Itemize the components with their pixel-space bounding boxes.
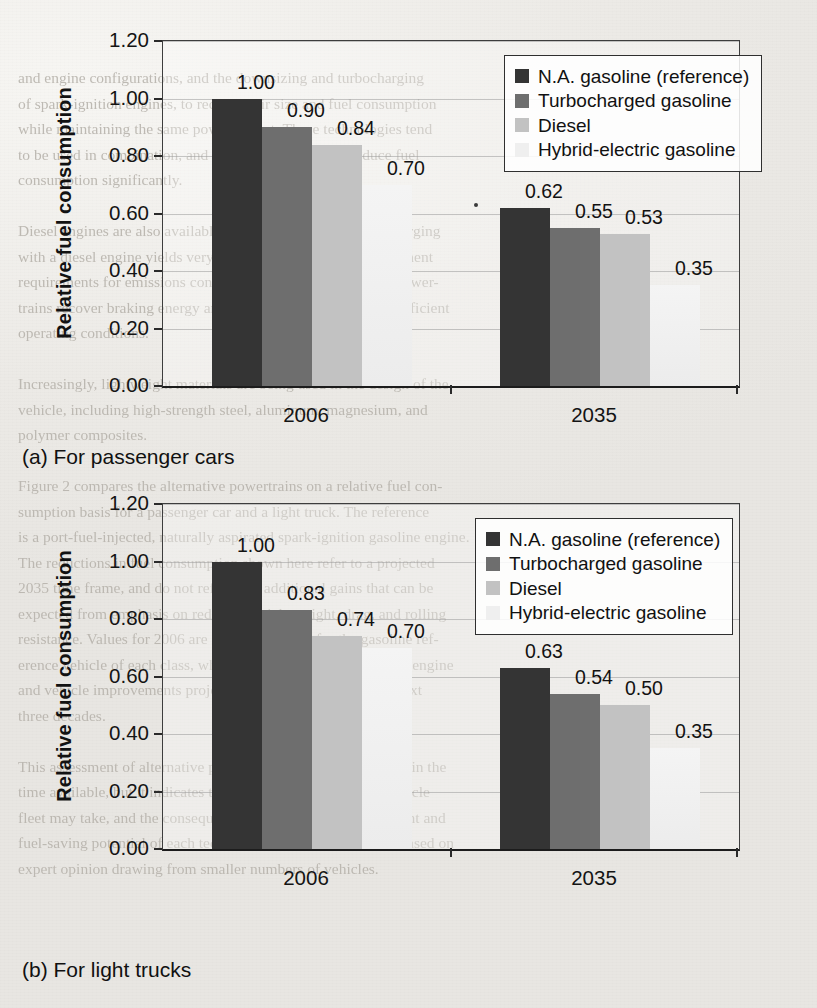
y-axis-tick [154, 40, 162, 42]
scan-speck [474, 203, 478, 207]
y-axis-tick [154, 618, 162, 620]
bar-value-label: 0.55 [575, 200, 613, 223]
bar [312, 145, 362, 387]
y-axis-tick-label: 1.20 [109, 491, 149, 515]
legend-item: Diesel [515, 114, 749, 137]
bar-value-label: 0.70 [387, 157, 425, 180]
bar [262, 127, 312, 386]
bar [550, 694, 600, 849]
y-axis-tick [154, 561, 162, 563]
bar-value-label: 0.35 [675, 257, 713, 280]
x-axis-category-label: 2035 [571, 866, 617, 890]
bar-value-label: 0.90 [287, 99, 325, 122]
category-separator-tick [450, 848, 452, 857]
bar-value-label: 0.70 [387, 620, 425, 643]
bar-value-label: 0.83 [287, 582, 325, 605]
y-axis-tick-label: 0.00 [109, 836, 149, 860]
figure-panel-a: Relative fuel consumption0.000.200.400.6… [0, 0, 817, 470]
bar-value-label: 0.84 [337, 117, 375, 140]
bar [600, 234, 650, 386]
panel-b-caption: (b) For light trucks [22, 958, 191, 982]
chart-legend: N.A. gasoline (reference)Turbocharged ga… [504, 55, 762, 172]
y-axis-tick-label: 0.20 [109, 316, 149, 340]
legend-item: Hybrid-electric gasoline [515, 138, 749, 161]
y-axis-tick-label: 1.20 [109, 28, 149, 52]
category-separator-tick [736, 385, 738, 394]
y-axis-tick [154, 213, 162, 215]
bar-value-label: 0.74 [337, 608, 375, 631]
y-axis-tick-label: 0.40 [109, 721, 149, 745]
y-gridline [163, 41, 739, 42]
legend-item: Hybrid-electric gasoline [486, 601, 720, 624]
legend-swatch-icon [515, 69, 529, 83]
bar-value-label: 1.00 [237, 534, 275, 557]
y-axis-tick [154, 791, 162, 793]
bar-value-label: 0.62 [525, 180, 563, 203]
y-axis-tick [154, 270, 162, 272]
y-axis-tick-label: 0.80 [109, 143, 149, 167]
legend-label: Diesel [538, 114, 591, 137]
y-axis-tick [154, 676, 162, 678]
bar-value-label: 0.50 [625, 677, 663, 700]
bar [500, 208, 550, 386]
figure-panel-b: Relative fuel consumption0.000.200.400.6… [0, 470, 817, 1008]
legend-label: N.A. gasoline (reference) [538, 65, 749, 88]
legend-item: Turbocharged gasoline [515, 89, 749, 112]
y-axis-tick [154, 98, 162, 100]
bar [262, 610, 312, 849]
y-axis-tick [154, 155, 162, 157]
y-axis-tick [154, 385, 162, 387]
bar [212, 562, 262, 850]
bar [212, 99, 262, 387]
legend-label: Diesel [509, 577, 562, 600]
bar [550, 228, 600, 386]
legend-label: Hybrid-electric gasoline [509, 601, 706, 624]
legend-swatch-icon [486, 557, 500, 571]
bar [312, 636, 362, 849]
y-axis-tick-label: 0.60 [109, 201, 149, 225]
bar-value-label: 0.54 [575, 666, 613, 689]
legend-item: N.A. gasoline (reference) [486, 528, 720, 551]
bar [650, 748, 700, 849]
y-axis-tick [154, 733, 162, 735]
legend-label: Turbocharged gasoline [538, 89, 732, 112]
legend-swatch-icon [515, 118, 529, 132]
panel-a-caption: (a) For passenger cars [22, 445, 234, 469]
y-axis-tick-label: 0.20 [109, 779, 149, 803]
y-axis-tick-label: 0.00 [109, 373, 149, 397]
legend-label: Hybrid-electric gasoline [538, 138, 735, 161]
x-axis-category-label: 2006 [283, 403, 329, 427]
y-axis-tick [154, 328, 162, 330]
legend-swatch-icon [486, 581, 500, 595]
y-axis-title: Relative fuel consumption [53, 550, 76, 801]
legend-item: N.A. gasoline (reference) [515, 65, 749, 88]
legend-swatch-icon [515, 94, 529, 108]
legend-swatch-icon [515, 143, 529, 157]
y-axis-tick [154, 848, 162, 850]
category-separator-tick [450, 385, 452, 394]
legend-item: Turbocharged gasoline [486, 552, 720, 575]
legend-swatch-icon [486, 532, 500, 546]
bar-value-label: 0.35 [675, 720, 713, 743]
bar-value-label: 1.00 [237, 71, 275, 94]
y-axis-tick-label: 1.00 [109, 549, 149, 573]
y-axis-tick [154, 503, 162, 505]
chart-legend: N.A. gasoline (reference)Turbocharged ga… [475, 518, 733, 635]
category-separator-tick [736, 848, 738, 857]
bar [362, 185, 412, 386]
x-axis-category-label: 2035 [571, 403, 617, 427]
legend-item: Diesel [486, 577, 720, 600]
y-axis-tick-label: 0.80 [109, 606, 149, 630]
bar [362, 648, 412, 849]
bar [650, 285, 700, 386]
legend-label: Turbocharged gasoline [509, 552, 703, 575]
x-axis-category-label: 2006 [283, 866, 329, 890]
bar [500, 668, 550, 849]
legend-label: N.A. gasoline (reference) [509, 528, 720, 551]
y-axis-tick-label: 0.60 [109, 664, 149, 688]
bar-value-label: 0.53 [625, 206, 663, 229]
bar [600, 705, 650, 849]
y-axis-tick-label: 0.40 [109, 258, 149, 282]
y-gridline [163, 504, 739, 505]
y-axis-tick-label: 1.00 [109, 86, 149, 110]
